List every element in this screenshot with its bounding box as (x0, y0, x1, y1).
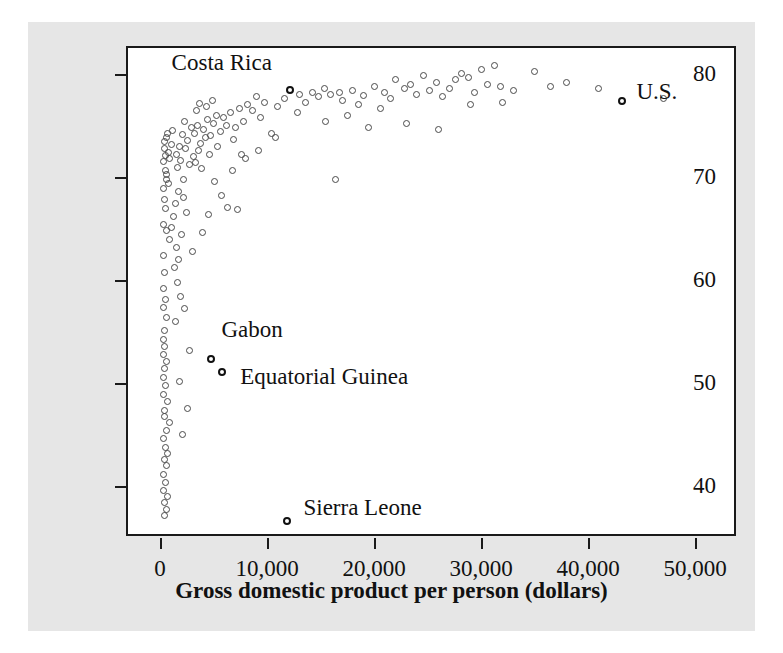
data-point (249, 107, 256, 114)
data-point (360, 92, 367, 99)
data-point (206, 151, 213, 158)
x-tick-mark (481, 538, 483, 549)
data-point (174, 279, 181, 286)
data-point (563, 79, 570, 86)
data-point (177, 293, 184, 300)
data-point (209, 97, 216, 104)
data-point (162, 479, 169, 486)
data-point (435, 126, 442, 133)
data-point (465, 74, 472, 81)
data-point (224, 204, 231, 211)
data-point (181, 118, 188, 125)
data-point (195, 147, 202, 154)
data-point (166, 419, 173, 426)
data-point (618, 97, 626, 105)
data-point (531, 68, 538, 75)
data-point (387, 95, 394, 102)
data-point (168, 141, 175, 148)
annotation-label: Sierra Leone (303, 495, 421, 521)
data-point (189, 248, 196, 255)
data-point (371, 83, 378, 90)
data-point (180, 194, 187, 201)
y-tick-mark (115, 486, 126, 488)
data-point (162, 382, 169, 389)
data-point (327, 91, 334, 98)
y-tick-mark (115, 383, 126, 385)
data-point (192, 159, 199, 166)
data-point (315, 93, 322, 100)
annotation-label: Costa Rica (172, 50, 272, 76)
data-point (160, 391, 167, 398)
data-point (272, 134, 279, 141)
x-tick-mark (160, 538, 162, 549)
data-point (191, 130, 198, 137)
data-point (365, 124, 372, 131)
data-point (403, 120, 410, 127)
data-point (183, 209, 190, 216)
data-point (234, 206, 241, 213)
x-tick-mark (588, 538, 590, 549)
data-point (160, 471, 167, 478)
data-point (433, 79, 440, 86)
data-point (229, 167, 236, 174)
x-tick-label: 40,000 (557, 556, 620, 582)
x-tick-label: 30,000 (450, 556, 513, 582)
data-point (446, 85, 453, 92)
data-point (198, 165, 205, 172)
data-point (227, 109, 234, 116)
data-point (223, 122, 230, 129)
data-point (174, 164, 181, 171)
data-point (184, 405, 191, 412)
data-point (302, 99, 309, 106)
data-point (332, 176, 339, 183)
data-point (220, 114, 227, 121)
data-point (176, 378, 183, 385)
data-point (471, 89, 478, 96)
data-point (392, 76, 399, 83)
data-point (283, 517, 291, 525)
data-point (349, 87, 356, 94)
data-point (199, 229, 206, 236)
data-point (193, 107, 200, 114)
data-point (205, 211, 212, 218)
data-point (177, 157, 184, 164)
data-point (162, 205, 169, 212)
data-point (426, 87, 433, 94)
data-point (166, 155, 173, 162)
data-point (218, 192, 225, 199)
data-point (467, 101, 474, 108)
data-point (161, 327, 168, 334)
data-point (339, 97, 346, 104)
x-tick-label: 20,000 (343, 556, 406, 582)
data-point (286, 86, 294, 94)
data-point (294, 109, 301, 116)
data-point (452, 76, 459, 83)
data-point (182, 145, 189, 152)
data-point (164, 398, 171, 405)
data-point (296, 91, 303, 98)
data-point (171, 264, 178, 271)
data-point (236, 105, 243, 112)
data-point (165, 180, 172, 187)
data-point (214, 143, 221, 150)
data-point (547, 83, 554, 90)
data-point (595, 85, 602, 92)
y-tick-label: 70 (693, 164, 716, 190)
data-point (172, 200, 179, 207)
data-point (322, 118, 329, 125)
x-tick-mark (374, 538, 376, 549)
data-point (160, 285, 167, 292)
data-point (166, 236, 173, 243)
data-point (253, 93, 260, 100)
data-point (163, 462, 170, 469)
data-point (160, 374, 167, 381)
data-point (179, 431, 186, 438)
data-point (321, 85, 328, 92)
annotation-label: U.S. (636, 79, 677, 105)
data-point (281, 95, 288, 102)
data-point (207, 355, 215, 363)
data-point (510, 87, 517, 94)
data-point (175, 256, 182, 263)
data-point (377, 105, 384, 112)
data-point (210, 120, 217, 127)
